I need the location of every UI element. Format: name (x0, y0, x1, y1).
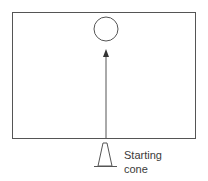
field-boundary (13, 13, 196, 139)
arrowhead-icon (103, 49, 109, 57)
cone-label-line-2: cone (124, 163, 148, 176)
cone-label-line-1: Starting (124, 149, 162, 162)
target-circle (94, 17, 118, 41)
cone-icon (98, 143, 112, 166)
drill-diagram (0, 0, 208, 181)
